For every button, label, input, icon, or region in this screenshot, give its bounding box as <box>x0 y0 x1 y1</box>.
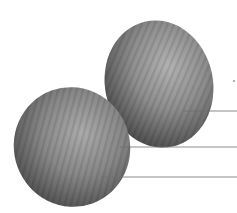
diagram-stage <box>0 0 237 213</box>
marker-dot <box>233 80 235 82</box>
diagram-canvas <box>0 0 237 213</box>
